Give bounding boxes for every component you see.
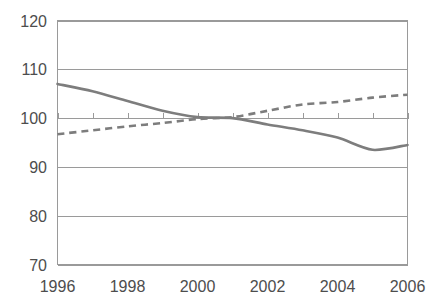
x-axis-tick-label: 2004 bbox=[320, 278, 356, 295]
y-axis-tick-label: 110 bbox=[21, 61, 47, 78]
x-axis-tick-label: 1996 bbox=[40, 278, 76, 295]
y-axis-tick-label: 100 bbox=[20, 110, 47, 127]
x-axis-tick-label: 2002 bbox=[250, 278, 286, 295]
y-axis-tick-label: 80 bbox=[29, 208, 47, 225]
y-axis-tick-label: 90 bbox=[29, 159, 47, 176]
line-chart: 120110100908070 199619982000200220042006 bbox=[0, 0, 430, 299]
x-axis-tick-label: 2000 bbox=[180, 278, 216, 295]
chart-canvas: 120110100908070 199619982000200220042006 bbox=[0, 0, 430, 299]
x-axis-tick-label: 2006 bbox=[390, 278, 426, 295]
x-axis-tick-label: 1998 bbox=[110, 278, 146, 295]
y-axis-tick-label: 70 bbox=[29, 257, 47, 274]
y-axis-tick-label: 120 bbox=[20, 13, 47, 30]
